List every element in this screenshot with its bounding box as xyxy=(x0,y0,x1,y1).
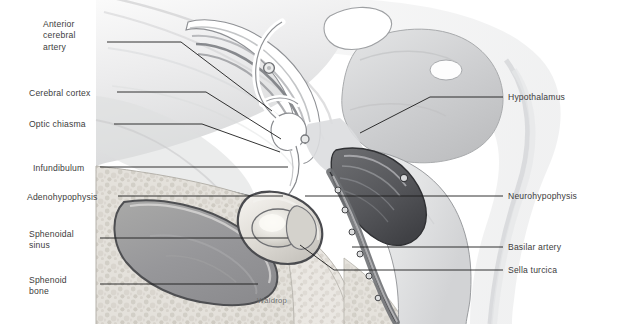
label-hypothalamus: Hypothalamus xyxy=(508,92,565,103)
label-sphenoidal-sinus: Sphenoidal sinus xyxy=(29,229,74,252)
label-optic-chiasma: Optic chiasma xyxy=(29,119,86,130)
label-infundibulum: Infundibulum xyxy=(33,163,84,174)
artist-signature: Waldrop xyxy=(257,296,287,305)
label-cerebral-cortex: Cerebral cortex xyxy=(29,88,90,99)
label-anterior-cerebral-artery: Anterior cerebral artery xyxy=(43,19,76,53)
label-sella-turcica: Sella turcica xyxy=(508,265,557,276)
label-sphenoid-bone: Sphenoid bone xyxy=(29,275,67,298)
label-basilar-artery: Basilar artery xyxy=(508,242,561,253)
anatomy-figure: Anterior cerebral artery Cerebral cortex… xyxy=(0,0,619,324)
label-adenohypophysis: Adenohypophysis xyxy=(27,192,98,203)
label-neurohypophysis: Neurohypophysis xyxy=(508,191,577,202)
